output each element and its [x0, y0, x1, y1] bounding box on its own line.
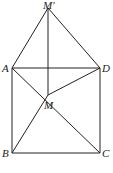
label-m: M	[43, 99, 54, 111]
label-b: B	[2, 147, 9, 159]
segment-d-m	[48, 68, 100, 95]
segment-b-m	[12, 95, 48, 153]
label-m-prime: M′	[42, 0, 55, 11]
segment-a-c	[12, 68, 100, 153]
segment-mprime-a	[12, 8, 48, 68]
geometry-diagram: M′ A D M B C	[0, 0, 113, 173]
label-c: C	[102, 147, 110, 159]
label-d: D	[101, 62, 110, 74]
label-a: A	[1, 62, 9, 74]
segment-mprime-d	[48, 8, 100, 68]
